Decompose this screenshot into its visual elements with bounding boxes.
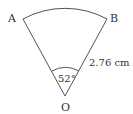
radius-label: 2.76 cm <box>89 57 130 68</box>
sector-diagram: A B O 52° 2.76 cm <box>0 0 133 114</box>
label-o: O <box>61 101 70 114</box>
angle-label: 52° <box>58 73 76 84</box>
angle-arc <box>52 68 79 71</box>
label-b: B <box>110 12 118 25</box>
label-a: A <box>7 12 17 25</box>
